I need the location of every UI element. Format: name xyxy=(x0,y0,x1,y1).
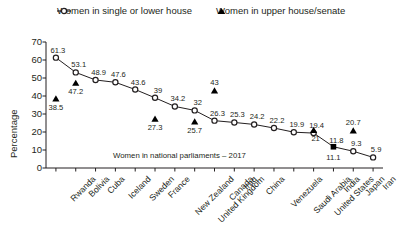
data-point-circle-marker xyxy=(212,118,217,123)
chart-annotation: Women in national parliaments – 2017 xyxy=(113,151,246,160)
data-point-circle-marker xyxy=(232,120,237,125)
data-point-circle-marker xyxy=(93,77,98,82)
data-point-circle-marker xyxy=(113,80,118,85)
data-point-triangle-marker xyxy=(211,87,218,93)
data-point-circle-marker xyxy=(53,55,58,60)
line-series-path xyxy=(56,58,373,158)
data-point-triangle-marker xyxy=(151,115,158,121)
data-point-circle-marker xyxy=(73,70,78,75)
data-point-circle-marker xyxy=(133,87,138,92)
data-point-triangle-marker xyxy=(310,127,317,133)
data-point-triangle-marker xyxy=(72,80,79,86)
data-point-circle-marker xyxy=(370,155,375,160)
chart-container: Women in single or lower house Women in … xyxy=(0,0,398,241)
data-point-circle-marker xyxy=(351,149,356,154)
data-point-circle-marker xyxy=(152,95,157,100)
data-point-circle-marker xyxy=(172,104,177,109)
data-point-circle-marker xyxy=(192,108,197,113)
data-point-circle-marker xyxy=(271,125,276,130)
data-point-circle-marker xyxy=(252,122,257,127)
data-point-triangle-marker xyxy=(350,127,357,133)
chart-svg xyxy=(0,0,398,241)
data-point-triangle-marker xyxy=(52,95,59,101)
data-point-overlap-marker xyxy=(331,144,337,150)
data-point-circle-marker xyxy=(291,130,296,135)
data-point-triangle-marker xyxy=(191,118,198,124)
